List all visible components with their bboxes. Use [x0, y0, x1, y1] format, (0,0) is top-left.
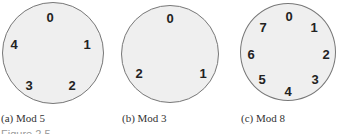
residue-label: 5 [258, 73, 265, 86]
residue-label: 2 [322, 48, 329, 61]
residue-label: 7 [259, 21, 266, 34]
residue-label: 4 [10, 38, 17, 51]
residue-label: 2 [68, 79, 75, 92]
residue-label: 2 [135, 67, 142, 80]
panel-caption: (c) Mod 8 [241, 112, 285, 124]
residue-label: 0 [285, 10, 292, 23]
residue-label: 3 [311, 73, 318, 86]
residue-label: 1 [310, 21, 317, 34]
figure-label: Figure 2.5 [1, 128, 51, 134]
residue-label: 6 [247, 48, 254, 61]
residue-label: 0 [166, 12, 173, 25]
residue-label: 1 [199, 67, 206, 80]
panel-caption: (b) Mod 3 [122, 112, 167, 124]
residue-label: 1 [83, 38, 90, 51]
residue-label: 3 [25, 79, 32, 92]
panel-caption: (a) Mod 5 [1, 112, 45, 124]
residue-label: 0 [46, 11, 53, 24]
residue-label: 4 [284, 85, 291, 98]
